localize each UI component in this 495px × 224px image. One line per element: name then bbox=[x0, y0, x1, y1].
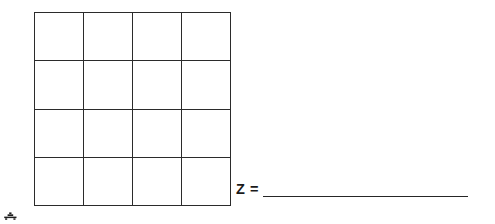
grid-cell[interactable] bbox=[182, 13, 231, 61]
grid-cell[interactable] bbox=[182, 158, 231, 206]
grid-container bbox=[34, 12, 231, 206]
corner-mark-icon bbox=[3, 209, 18, 220]
answer-blank-line[interactable] bbox=[263, 196, 468, 197]
blank-4x4-answer-grid bbox=[34, 12, 231, 206]
grid-cell[interactable] bbox=[133, 158, 182, 206]
worksheet-page: Z = bbox=[0, 0, 495, 224]
grid-cell[interactable] bbox=[84, 61, 133, 109]
grid-cell[interactable] bbox=[84, 158, 133, 206]
grid-cell[interactable] bbox=[182, 110, 231, 158]
grid-cell[interactable] bbox=[133, 13, 182, 61]
grid-cell[interactable] bbox=[35, 158, 84, 206]
grid-cell[interactable] bbox=[35, 110, 84, 158]
grid-cell[interactable] bbox=[35, 13, 84, 61]
answer-row: Z = bbox=[236, 178, 468, 198]
grid-cell[interactable] bbox=[182, 61, 231, 109]
answer-label: Z = bbox=[236, 182, 259, 199]
grid-cell[interactable] bbox=[84, 110, 133, 158]
grid-cell[interactable] bbox=[35, 61, 84, 109]
grid-cell[interactable] bbox=[133, 110, 182, 158]
grid-cell[interactable] bbox=[84, 13, 133, 61]
grid-cell[interactable] bbox=[133, 61, 182, 109]
